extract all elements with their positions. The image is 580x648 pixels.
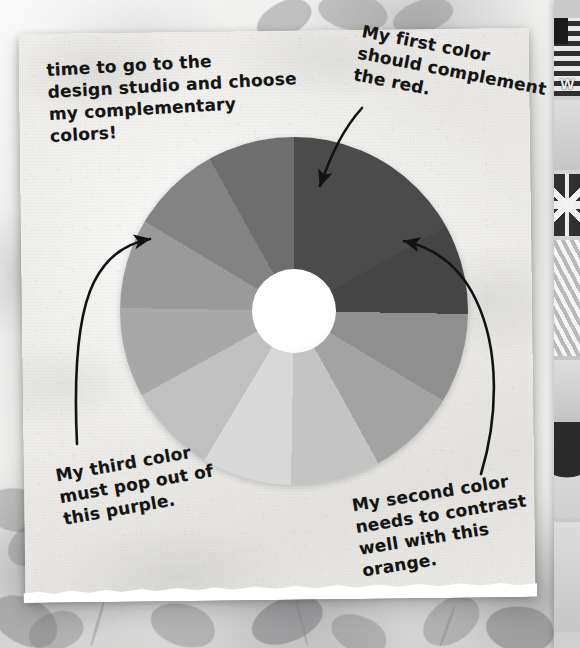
color-wheel-hub [252,269,336,353]
note-top-left: time to go to the design studio and choo… [46,45,300,147]
screenshot-scene: W [0,0,580,648]
color-wheel[interactable] [120,137,468,485]
photo-strip-cell [554,360,580,418]
photo-strip-cell [554,174,580,236]
photo-strip-cell [554,240,580,356]
